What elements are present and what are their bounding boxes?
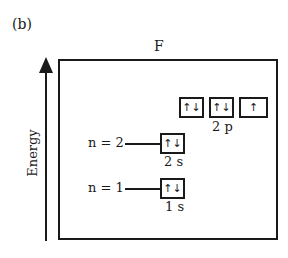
level-line-n2	[125, 143, 160, 145]
energy-axis-line	[45, 70, 47, 241]
orbital-label-2p: 2 p	[212, 120, 233, 134]
level-line-n1	[125, 188, 160, 190]
orbital-box-2p-3: ↑	[239, 97, 268, 118]
level-label-n2: n = 2	[88, 136, 124, 150]
element-symbol: F	[154, 38, 164, 54]
level-label-n1: n = 1	[88, 181, 124, 195]
orbital-label-2s: 2 s	[164, 155, 183, 169]
panel-label: (b)	[12, 16, 32, 32]
orbital-box-2p-2: ↑↓	[209, 97, 234, 118]
energy-axis-label: Energy	[26, 122, 40, 184]
orbital-box-2p-1: ↑↓	[179, 97, 204, 118]
orbital-label-1s: 1 s	[165, 200, 184, 214]
orbital-box-2s: ↑↓	[160, 133, 185, 154]
orbital-box-1s: ↑↓	[160, 178, 185, 199]
